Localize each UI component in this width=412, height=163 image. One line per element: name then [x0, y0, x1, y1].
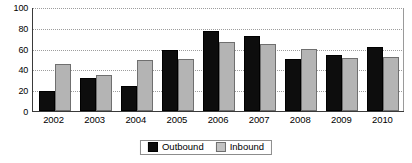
- chart-plot-region: 020406080100 200220032004200520062007200…: [0, 0, 412, 133]
- x-tick-label: 2002: [33, 114, 74, 125]
- x-tick-label: 2005: [156, 114, 197, 125]
- bar-outbound-2009[interactable]: [326, 55, 342, 111]
- chart-legend: OutboundInbound: [140, 140, 272, 155]
- x-axis: 200220032004200520062007200820092010: [33, 114, 403, 125]
- bar-group-2009: [321, 8, 362, 111]
- plot-right-border: [403, 8, 404, 111]
- x-tick-label: 2003: [74, 114, 115, 125]
- y-tick-label: 20: [18, 86, 28, 96]
- bar-outbound-2007[interactable]: [244, 36, 260, 111]
- bar-outbound-2003[interactable]: [80, 78, 96, 111]
- bar-inbound-2002[interactable]: [55, 64, 71, 111]
- bar-group-2010: [362, 8, 403, 111]
- bars-layer: [34, 8, 403, 111]
- bar-chart-screenshot: 020406080100 200220032004200520062007200…: [0, 0, 412, 163]
- bar-group-2008: [280, 8, 321, 111]
- x-tick-label: 2004: [115, 114, 156, 125]
- bar-inbound-2007[interactable]: [260, 44, 276, 111]
- bar-group-2007: [239, 8, 280, 111]
- x-tick-label: 2008: [280, 114, 321, 125]
- legend-swatch-icon: [148, 142, 158, 152]
- legend-swatch-icon: [216, 142, 226, 152]
- bar-outbound-2005[interactable]: [162, 50, 178, 111]
- legend-entry-inbound[interactable]: Inbound: [216, 142, 264, 152]
- bar-inbound-2004[interactable]: [137, 60, 153, 111]
- y-tick-label: 0: [23, 107, 28, 117]
- y-tick-label: 40: [18, 65, 28, 75]
- bar-inbound-2006[interactable]: [219, 42, 235, 111]
- bar-inbound-2003[interactable]: [96, 75, 112, 111]
- x-tick-label: 2009: [321, 114, 362, 125]
- bar-inbound-2009[interactable]: [342, 58, 358, 111]
- legend-label: Inbound: [230, 142, 264, 152]
- legend-label: Outbound: [162, 142, 204, 152]
- y-tick-label: 80: [18, 24, 28, 34]
- bar-inbound-2005[interactable]: [178, 59, 194, 111]
- plot-box: [32, 8, 404, 112]
- legend-entry-outbound[interactable]: Outbound: [148, 142, 204, 152]
- bar-outbound-2002[interactable]: [39, 91, 55, 111]
- x-tick-label: 2010: [362, 114, 403, 125]
- bar-group-2006: [198, 8, 239, 111]
- bar-outbound-2010[interactable]: [367, 47, 383, 111]
- bar-group-2005: [157, 8, 198, 111]
- y-tick-label: 60: [18, 45, 28, 55]
- x-tick-label: 2007: [239, 114, 280, 125]
- bar-inbound-2008[interactable]: [301, 49, 317, 111]
- bar-group-2003: [75, 8, 116, 111]
- x-tick-label: 2006: [197, 114, 238, 125]
- bar-group-2004: [116, 8, 157, 111]
- bar-inbound-2010[interactable]: [383, 57, 399, 111]
- bar-outbound-2008[interactable]: [285, 59, 301, 111]
- bar-group-2002: [34, 8, 75, 111]
- bar-outbound-2006[interactable]: [203, 31, 219, 111]
- y-axis: 020406080100: [2, 4, 28, 112]
- bar-outbound-2004[interactable]: [121, 86, 137, 111]
- y-tick-label: 100: [14, 3, 28, 13]
